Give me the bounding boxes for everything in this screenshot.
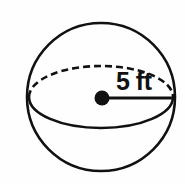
sphere-diagram-canvas: 5 ft [0, 0, 185, 184]
radius-measurement-label: 5 ft [116, 67, 153, 95]
sphere-diagram: 5 ft [0, 0, 185, 184]
center-point-dot [95, 91, 110, 106]
